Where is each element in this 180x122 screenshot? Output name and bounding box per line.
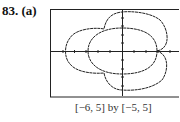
outer-curve — [66, 12, 168, 91]
window-caption: [−6, 5] by [−5, 5] — [75, 101, 152, 113]
window-frame — [51, 10, 180, 98]
